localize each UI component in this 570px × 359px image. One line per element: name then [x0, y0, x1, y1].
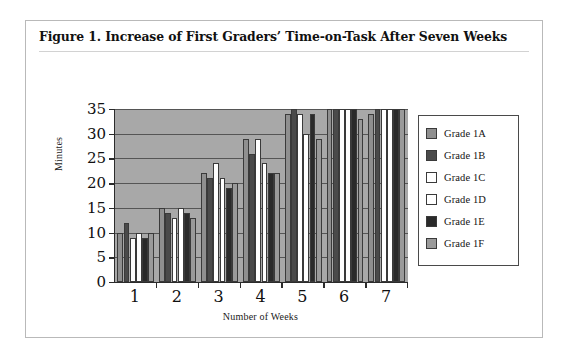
x-tick-mark: [407, 282, 408, 288]
bar: [387, 109, 393, 282]
bar: [220, 178, 226, 282]
bar: [381, 109, 387, 282]
x-tick-mark: [240, 282, 241, 288]
bar: [327, 109, 333, 282]
legend-swatch-icon: [426, 172, 437, 183]
x-axis-label: Number of Weeks: [114, 311, 407, 322]
y-tick-label: 35: [87, 102, 106, 117]
legend-item: Grade 1F: [426, 236, 484, 251]
bar: [232, 183, 238, 282]
bar: [165, 213, 171, 282]
figure-title: Figure 1. Increase of First Graders’ Tim…: [39, 29, 529, 44]
legend-swatch-icon: [426, 216, 437, 227]
bar: [207, 178, 213, 282]
legend-label: Grade 1A: [444, 128, 486, 139]
bar: [172, 218, 178, 282]
x-tick-mark: [365, 282, 366, 288]
bar-chart: Minutes 05101520253035 1234567 Number of…: [39, 59, 531, 331]
legend-item: Grade 1B: [426, 148, 485, 163]
legend-label: Grade 1D: [444, 194, 486, 205]
legend-swatch-icon: [426, 150, 437, 161]
legend-swatch-icon: [426, 238, 437, 249]
legend-item: Grade 1E: [426, 214, 485, 229]
bar: [399, 109, 405, 282]
y-tick-label: 5: [96, 250, 106, 265]
bar: [249, 154, 255, 283]
bar: [339, 109, 345, 282]
bar: [117, 233, 123, 282]
bar: [130, 238, 136, 282]
bar: [243, 139, 249, 282]
bar: [148, 233, 154, 282]
legend-swatch-icon: [426, 128, 437, 139]
x-tick-label: 5: [297, 287, 307, 306]
x-tick-label: 2: [172, 287, 182, 306]
bar: [201, 173, 207, 282]
y-tick-label: 20: [87, 176, 106, 191]
bar: [274, 173, 280, 282]
y-tick-label: 30: [87, 126, 106, 141]
bar: [159, 208, 165, 282]
bar: [316, 139, 322, 282]
title-divider: [39, 51, 529, 52]
gridline: [115, 134, 408, 135]
x-tick-label: 4: [255, 287, 265, 306]
x-tick-label: 1: [130, 287, 140, 306]
bar: [358, 119, 364, 282]
bar: [351, 109, 357, 282]
chart-legend: Grade 1AGrade 1BGrade 1CGrade 1DGrade 1E…: [418, 115, 519, 266]
x-tick-mark: [323, 282, 324, 288]
x-tick-mark: [156, 282, 157, 288]
bar: [213, 163, 219, 282]
legend-label: Grade 1B: [444, 150, 485, 161]
legend-label: Grade 1E: [444, 216, 485, 227]
x-tick-mark: [281, 282, 282, 288]
bar: [255, 139, 261, 282]
figure-frame: Figure 1. Increase of First Graders’ Tim…: [25, 20, 543, 338]
bar: [178, 208, 184, 282]
legend-label: Grade 1F: [444, 238, 484, 249]
y-axis-label: Minutes: [53, 137, 64, 171]
bar: [184, 213, 190, 282]
legend-item: Grade 1D: [426, 192, 486, 207]
bar: [226, 188, 232, 282]
x-tick-label: 7: [381, 287, 391, 306]
legend-label: Grade 1C: [444, 172, 485, 183]
y-tick-label: 10: [87, 225, 106, 240]
gridline: [115, 109, 408, 110]
legend-item: Grade 1C: [426, 170, 485, 185]
y-tick-label: 15: [87, 200, 106, 215]
bar: [285, 114, 291, 282]
bar: [368, 114, 374, 282]
bar: [142, 238, 148, 282]
bar: [291, 109, 297, 282]
bar: [375, 109, 381, 282]
bar: [268, 173, 274, 282]
legend-swatch-icon: [426, 194, 437, 205]
bar: [124, 223, 130, 282]
bar: [190, 218, 196, 282]
plot-area: [114, 109, 408, 283]
bar: [136, 233, 142, 282]
x-tick-mark: [198, 282, 199, 288]
bar: [310, 114, 316, 282]
legend-item: Grade 1A: [426, 126, 486, 141]
bar: [297, 114, 303, 282]
bar: [345, 109, 351, 282]
y-tick-label: 0: [96, 275, 106, 290]
x-tick-label: 6: [339, 287, 349, 306]
gridline: [115, 158, 408, 159]
y-tick-label: 25: [87, 151, 106, 166]
bar: [393, 109, 399, 282]
bar: [333, 109, 339, 282]
bar: [262, 163, 268, 282]
x-tick-label: 3: [214, 287, 224, 306]
bar: [303, 134, 309, 282]
